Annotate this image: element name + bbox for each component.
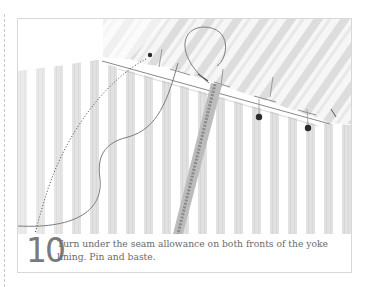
step-panel: 10 Turn under the seam allowance on both… (17, 18, 352, 273)
step-instruction: Turn under the seam allowance on both fr… (57, 238, 347, 263)
step-caption: 10 Turn under the seam allowance on both… (26, 236, 343, 270)
sewing-illustration (18, 19, 351, 234)
page-margin-rule (4, 14, 5, 287)
